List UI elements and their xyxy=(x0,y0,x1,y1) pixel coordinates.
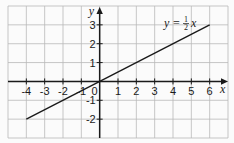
x-tick-label: -2 xyxy=(58,85,68,97)
x-tick-label: -1 xyxy=(76,85,86,97)
x-tick-label: 4 xyxy=(170,85,176,97)
equation-prefix: y = xyxy=(163,16,180,30)
x-tick-label: 6 xyxy=(207,85,213,97)
y-axis-arrow-icon xyxy=(96,7,102,14)
x-tick-label: 5 xyxy=(188,85,194,97)
x-tick-label: 1 xyxy=(115,85,121,97)
y-tick-label: -2 xyxy=(86,113,96,125)
x-tick-label: 3 xyxy=(152,85,158,97)
y-axis-label: y xyxy=(88,4,95,18)
x-tick-label: -4 xyxy=(21,85,31,97)
equation-variable: x xyxy=(190,16,197,30)
x-tick-label: -3 xyxy=(40,85,50,97)
x-axis-label: x xyxy=(219,82,226,96)
y-tick-label: 2 xyxy=(90,38,96,50)
x-tick-label: 2 xyxy=(133,85,139,97)
y-tick-label: -1 xyxy=(86,94,96,106)
y-tick-label: 1 xyxy=(90,57,96,69)
equation-label: y = 1 2 x xyxy=(163,15,197,32)
equation-denominator: 2 xyxy=(184,23,188,32)
coordinate-plane: -4-3-2-10123456-2-1123 x y y = 1 2 x xyxy=(0,0,234,143)
y-tick-label: 3 xyxy=(90,19,96,31)
